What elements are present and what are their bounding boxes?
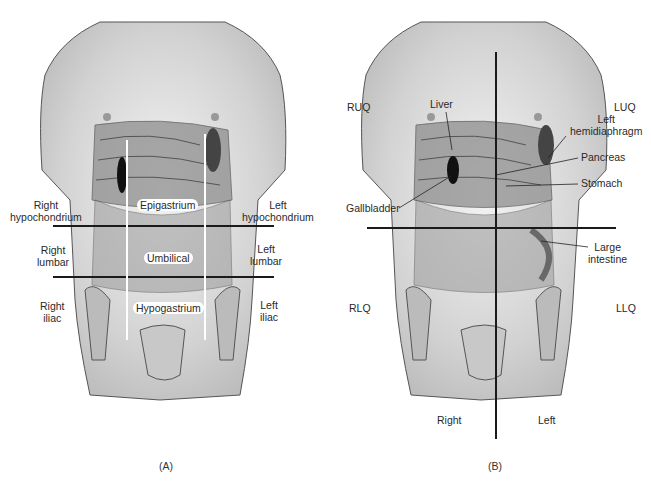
label-umbilical: Umbilical: [144, 252, 193, 264]
label-right-iliac: Right iliac: [40, 300, 65, 324]
label-ruq: RUQ: [347, 101, 370, 113]
label-rlq: RLQ: [349, 302, 371, 314]
label-luq: LUQ: [614, 101, 636, 113]
label-hypogastrium: Hypogastrium: [133, 302, 204, 314]
label-epigastrium: Epigastrium: [137, 199, 198, 211]
label-left-iliac: Left iliac: [260, 299, 278, 323]
vertical-midline: [495, 52, 497, 439]
label-side-right: Right: [437, 414, 462, 426]
lower-horizontal-line: [53, 276, 274, 278]
label-pancreas: Pancreas: [581, 151, 625, 163]
right-midclavicular-line: [126, 140, 128, 340]
label-side-left: Left: [538, 414, 556, 426]
torso-illustration-a: [0, 0, 325, 481]
label-llq: LLQ: [616, 302, 636, 314]
panel-a-nine-regions: Right hypochondrium Epigastrium Left hyp…: [0, 0, 325, 481]
caption-a: (A): [159, 460, 173, 472]
label-stomach: Stomach: [581, 177, 622, 189]
label-right-lumbar: Right lumbar: [37, 244, 69, 268]
horizontal-umbilical-line: [367, 227, 616, 229]
label-left-hypochondrium: Left hypochondrium: [242, 199, 314, 223]
left-midclavicular-line: [204, 134, 206, 340]
label-large-intestine: Large intestine: [588, 241, 627, 265]
label-right-hypochondrium: Right hypochondrium: [10, 199, 82, 223]
label-left-lumbar: Left lumbar: [250, 243, 282, 267]
upper-horizontal-line: [53, 225, 274, 227]
label-gallbladder: Gallbladder: [346, 202, 400, 214]
label-left-hemidiaphragm: Left hemidiaphragm: [570, 113, 642, 137]
label-liver: Liver: [430, 98, 453, 110]
panel-b-four-quadrants: RUQ LUQ RLQ LLQ Liver Left hemidiaphragm…: [326, 0, 651, 481]
caption-b: (B): [488, 460, 502, 472]
